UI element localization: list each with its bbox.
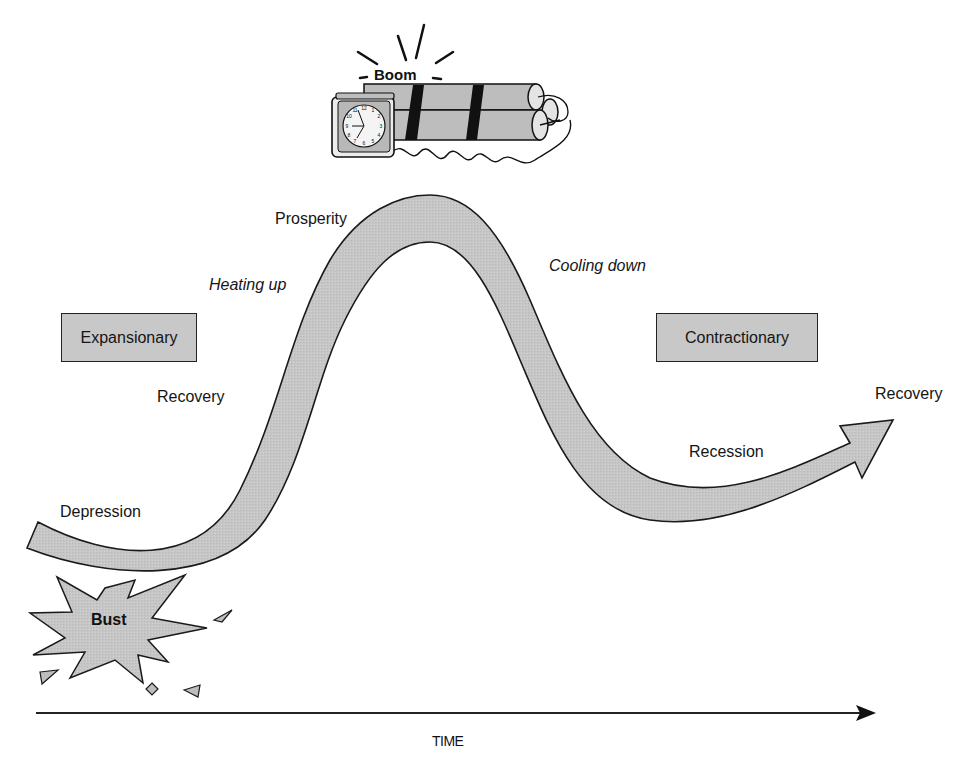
time-axis-label: TIME [432,733,463,749]
bust-label: Bust [91,611,127,629]
svg-text:5: 5 [372,138,375,144]
svg-text:12: 12 [361,105,367,111]
svg-text:3: 3 [380,123,383,129]
heating-up-label: Heating up [209,276,286,294]
recession-label: Recession [689,443,764,461]
svg-text:6: 6 [363,140,366,146]
boom-label: Boom [374,66,417,83]
depression-label: Depression [60,503,141,521]
prosperity-label: Prosperity [275,210,347,228]
svg-text:7: 7 [354,138,357,144]
business-cycle-diagram: 12 1 2 3 4 5 6 7 8 9 10 11 [0,0,972,766]
starburst-explosion-icon [30,575,232,697]
svg-text:8: 8 [348,132,351,138]
cooling-down-label: Cooling down [549,257,646,275]
svg-text:11: 11 [352,107,357,113]
expansionary-box: Expansionary [61,313,197,362]
time-axis [36,705,876,721]
dynamite-bundle-with-clock-icon: 12 1 2 3 4 5 6 7 8 9 10 11 [332,25,571,163]
svg-text:4: 4 [378,132,381,138]
svg-text:9: 9 [346,123,349,129]
cycle-curve [27,195,893,571]
svg-text:1: 1 [372,107,375,113]
recovery-left-label: Recovery [157,388,225,406]
svg-text:2: 2 [378,113,381,119]
contractionary-box: Contractionary [656,313,818,362]
svg-text:10: 10 [346,113,352,119]
recovery-right-label: Recovery [875,385,943,403]
